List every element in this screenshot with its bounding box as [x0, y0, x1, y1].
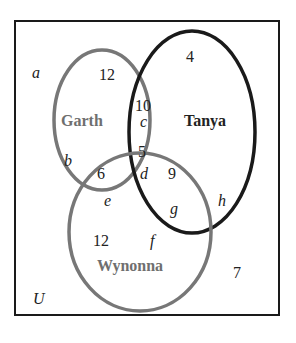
- count-outside: 7: [233, 264, 241, 281]
- region-label-e: e: [104, 192, 111, 209]
- region-label-d: d: [140, 165, 149, 182]
- region-label-a: a: [32, 64, 40, 81]
- universe-label: U: [33, 290, 46, 307]
- region-label-h: h: [218, 192, 226, 209]
- count-tanya-wynonna: 9: [168, 165, 176, 182]
- region-label-f: f: [150, 232, 157, 250]
- region-label-b: b: [64, 152, 72, 169]
- region-label-g: g: [170, 200, 178, 218]
- count-garth-wynonna: 6: [97, 165, 105, 182]
- count-wynonna-only: 12: [93, 232, 109, 249]
- tanya-label: Tanya: [184, 112, 226, 130]
- region-label-c: c: [140, 113, 147, 130]
- venn-diagram: Garth Tanya Wynonna 12 4 10 5 6 9 12 7 a…: [0, 0, 296, 343]
- count-tanya-only: 4: [186, 48, 194, 65]
- count-all-three: 5: [138, 143, 146, 160]
- wynonna-label: Wynonna: [97, 257, 163, 275]
- count-garth-only: 12: [99, 66, 115, 83]
- garth-label: Garth: [61, 112, 103, 129]
- count-garth-tanya: 10: [135, 97, 151, 114]
